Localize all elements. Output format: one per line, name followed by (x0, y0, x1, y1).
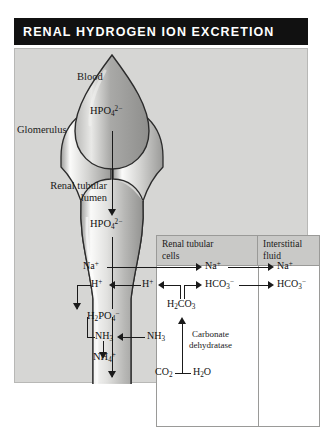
species-hco3-fluid: HCO3− (277, 279, 306, 291)
hco3-arrow-head (196, 281, 202, 289)
carbonate-reaction-arrow (178, 317, 186, 324)
flow-line-lower (112, 317, 113, 377)
species-na-cell: Na+ (205, 261, 221, 271)
diagram-root: RENAL HYDROGEN ION EXCRETION (0, 0, 324, 437)
h-cell-arrow (158, 281, 164, 289)
nh4-form-arrow (99, 352, 107, 359)
flow-arrow-upper (108, 209, 116, 216)
h-transport-arrow (109, 281, 115, 289)
na-arrow-head-1 (196, 263, 202, 271)
species-h2o: H2O (193, 367, 211, 379)
na-arrow-line-2 (228, 267, 269, 268)
nh3-lumen-riser (87, 317, 88, 337)
species-co2: CO2 (155, 367, 173, 379)
species-na-fluid: Na+ (277, 261, 293, 271)
label-glomerulus: Glomerulus (17, 124, 67, 136)
hco3-transport-line (239, 285, 269, 286)
species-hpo4-blood: HPO42− (90, 106, 122, 118)
flow-arrow-bottom (108, 371, 116, 378)
diagram-panel: Blood Glomerulus Renal tubular lumen HPO… (14, 48, 308, 383)
species-h2po4: H2PO4− (87, 311, 119, 323)
h2co3-split-left (180, 285, 181, 299)
flow-line-upper (112, 131, 113, 213)
hco3-transport-arrow (268, 281, 274, 289)
nh3-transport-arrow (117, 333, 123, 341)
h-transport-line (111, 285, 141, 286)
page-title: RENAL HYDROGEN ION EXCRETION (14, 25, 274, 39)
species-hco3-cell: HCO3− (205, 279, 234, 291)
na-arrow-line-1 (107, 267, 197, 268)
na-arrow-head-2 (268, 263, 274, 271)
species-h-lumen: H+ (91, 279, 102, 289)
species-nh3-lumen: NH3 (95, 331, 113, 343)
h-lumen-drop-arrow (73, 303, 81, 310)
compartment-table: Renal tubular cells Interstitial fluid (156, 235, 320, 427)
label-blood: Blood (77, 71, 103, 83)
species-na-lumen: Na+ (83, 261, 99, 271)
carbonate-reaction-line (182, 323, 183, 373)
h2co3-split-right (184, 285, 185, 299)
nh3-lumen-stub (87, 337, 95, 338)
species-h-cell: H+ (142, 279, 153, 289)
label-renal-tubular-lumen: Renal tubular lumen (15, 180, 107, 205)
species-h2co3: H2CO3 (167, 299, 195, 311)
flow-line-mid (112, 237, 113, 309)
species-hpo4-lumen: HPO42− (90, 219, 122, 231)
table-column-divider (258, 266, 259, 427)
diagram-title-bar: RENAL HYDROGEN ION EXCRETION (14, 18, 308, 45)
label-carbonate-dehydratase: Carbonate dehydratase (189, 329, 232, 351)
h-lumen-stub (77, 285, 91, 286)
species-nh3-cell: NH3 (147, 331, 165, 343)
co2-h2o-join (175, 373, 191, 374)
